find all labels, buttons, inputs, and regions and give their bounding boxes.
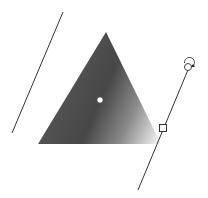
gradient-filled-triangle[interactable]: [38, 32, 161, 144]
drawing-canvas[interactable]: [0, 0, 208, 198]
rotate-handle-icon[interactable]: [184, 57, 195, 70]
gradient-center-handle[interactable]: [97, 97, 103, 103]
gradient-start-line[interactable]: [12, 12, 63, 133]
gradient-end-handle[interactable]: [160, 125, 167, 132]
